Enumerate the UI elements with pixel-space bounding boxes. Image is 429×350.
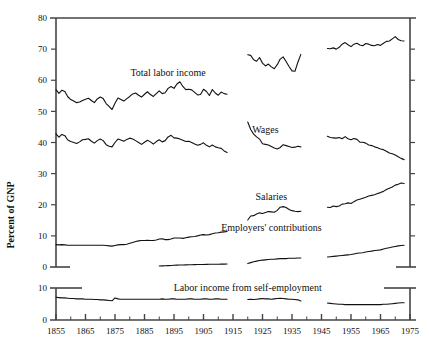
main-y-tick-label: 80 — [38, 13, 48, 23]
x-tick-label: 1875 — [106, 326, 125, 336]
x-tick-label: 1915 — [224, 326, 243, 336]
x-tick-label: 1935 — [283, 326, 302, 336]
x-tick-label: 1945 — [313, 326, 332, 336]
bottom-y-tick-label: 10 — [38, 283, 48, 293]
main-y-tick-label: 0 — [43, 262, 48, 272]
series-label: Employers' contributions — [221, 222, 322, 233]
bottom-y-tick-label: 0 — [43, 315, 48, 325]
figure-container: Percent of GNP 01020304050607080 Total l… — [0, 0, 429, 350]
series-label: Wages — [252, 124, 279, 135]
series-label: Total labor income — [130, 67, 206, 78]
x-tick-label: 1855 — [47, 326, 66, 336]
y-axis-title-group: Percent of GNP — [5, 181, 16, 248]
x-tick-label: 1965 — [372, 326, 391, 336]
x-tick-label: 1885 — [136, 326, 155, 336]
x-tick-label: 1975 — [401, 326, 420, 336]
x-tick-label: 1865 — [77, 326, 96, 336]
x-tick-label: 1905 — [195, 326, 214, 336]
main-y-tick-label: 40 — [38, 138, 48, 148]
y-axis-title: Percent of GNP — [5, 181, 16, 248]
percent-of-gnp-chart: Percent of GNP 01020304050607080 Total l… — [0, 0, 429, 350]
main-y-tick-label: 50 — [38, 107, 48, 117]
main-y-tick-label: 30 — [38, 169, 48, 179]
main-y-tick-label: 60 — [38, 75, 48, 85]
main-y-tick-label: 70 — [38, 44, 48, 54]
main-y-tick-label: 20 — [38, 200, 48, 210]
x-tick-label: 1955 — [342, 326, 361, 336]
x-tick-label: 1895 — [165, 326, 184, 336]
series-label: Labor income from self-employment — [174, 282, 322, 293]
main-y-tick-label: 10 — [38, 231, 48, 241]
series-label: Salaries — [256, 191, 288, 202]
x-tick-label: 1925 — [254, 326, 273, 336]
bottom-panel-series-labels: Labor income from self-employment — [174, 282, 322, 293]
